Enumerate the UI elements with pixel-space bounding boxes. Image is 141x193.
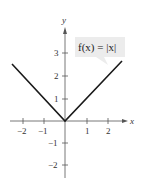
y-axis: y 3 2 1 −1 −2	[48, 15, 68, 178]
y-axis-label: y	[61, 15, 66, 25]
y-tick-label: −2	[48, 160, 58, 170]
graph-canvas: f(x) = |x| x −2 −1 1 2 y 3 2 1 −1 −2	[0, 0, 141, 193]
y-axis-arrow-icon	[63, 27, 67, 34]
y-tick-label: −1	[48, 138, 58, 148]
function-label-callout: f(x) = |x|	[75, 37, 125, 65]
x-axis: x −2 −1 1 2	[10, 116, 134, 136]
x-axis-arrow-icon	[122, 119, 128, 123]
x-tick-label: 2	[106, 126, 111, 136]
y-tick-label: 1	[54, 94, 59, 104]
x-tick-label: −2	[17, 126, 27, 136]
function-label: f(x) = |x|	[78, 41, 116, 54]
x-tick-label: 1	[85, 126, 90, 136]
x-tick-label: −1	[38, 126, 48, 136]
y-tick-label: 2	[54, 71, 59, 81]
y-tick-label: 3	[54, 48, 59, 58]
x-axis-label: x	[129, 116, 134, 126]
function-curve	[12, 61, 122, 121]
